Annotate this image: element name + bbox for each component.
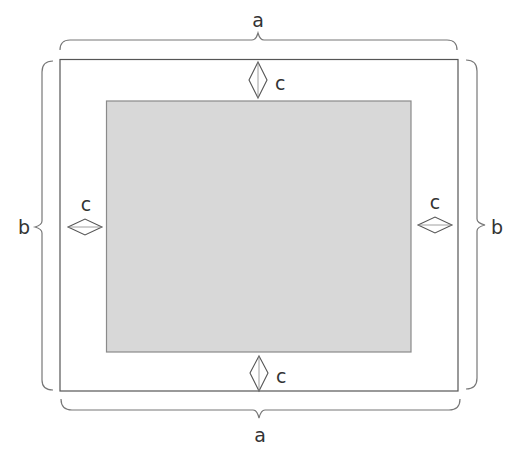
bottom-margin-label: c bbox=[276, 365, 286, 387]
inner-panel bbox=[107, 101, 412, 352]
top-margin-label: c bbox=[275, 72, 285, 94]
bottom-brace bbox=[61, 399, 460, 418]
right-dimension-label: b bbox=[491, 216, 503, 238]
bottom-dimension-label: a bbox=[254, 424, 266, 446]
top-dimension-label: a bbox=[252, 9, 264, 31]
top-brace bbox=[60, 33, 457, 50]
right-brace bbox=[466, 60, 485, 389]
left-dimension-label: b bbox=[18, 216, 30, 238]
left-margin-label: c bbox=[81, 193, 91, 215]
right-margin-label: c bbox=[430, 191, 440, 213]
left-brace bbox=[35, 61, 53, 390]
frame-dimension-diagram: a a b b c c c c bbox=[0, 0, 522, 462]
